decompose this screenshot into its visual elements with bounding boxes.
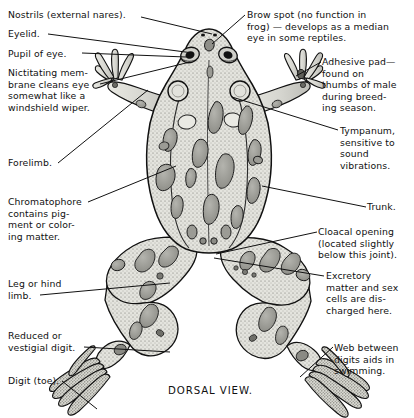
callout-label-chromatophore: Chromatophore contains pig- ment or colo… [8, 196, 82, 242]
callout-label-brow-spot: Brow spot (no function in frog) — develo… [247, 9, 389, 44]
tympanum-right [230, 81, 250, 101]
callout-label-adhesive-pad: Adhesive pad— found on thumbs of male du… [322, 56, 397, 114]
callout-label-web-between-digits: Web between digits aids in swimming. [334, 342, 399, 377]
leader-line-brow-spot [212, 15, 245, 44]
leader-line-nostrils [141, 17, 212, 34]
figure-caption: DORSAL VIEW. [168, 385, 253, 396]
callout-label-trunk: Trunk. [367, 201, 396, 213]
callout-label-forelimb: Forelimb. [8, 157, 52, 169]
callout-label-nostrils: Nostrils (external nares). [8, 9, 126, 21]
median-dorsal-spot [207, 66, 213, 78]
figure-canvas: Nostrils (external nares).Eyelid.Pupil o… [0, 0, 414, 418]
tympanum-left [168, 81, 188, 101]
callout-label-leg-or-hind-limb: Leg or hind limb. [8, 278, 61, 301]
leader-line-trunk [262, 186, 366, 207]
callout-label-digit-toe: Digit (toe). [8, 375, 59, 387]
callout-label-cloacal-opening: Cloacal opening (located slightly below … [318, 226, 397, 261]
callout-label-tympanum: Tympanum, sensitive to sound vibrations. [340, 125, 395, 171]
callout-label-eyelid: Eyelid. [8, 28, 40, 40]
nostril-left [201, 34, 205, 37]
leader-line-eyelid [48, 34, 193, 53]
brow-spot-mark [205, 39, 215, 51]
callout-label-reduced-vestigial-digit: Reduced or vestigial digit. [8, 330, 75, 353]
nostril-right [213, 34, 217, 37]
callout-label-pupil-of-eye: Pupil of eye. [8, 48, 66, 60]
callout-label-nictitating-membrane: Nictitating mem- brane cleans eye somewh… [8, 67, 90, 113]
callout-label-excretory-matter: Excretory matter and sex cells are dis- … [326, 270, 398, 316]
